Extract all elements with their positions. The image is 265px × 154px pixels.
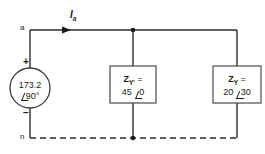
current-label-ia: Ia — [70, 10, 76, 23]
source-minus-sign: − — [23, 108, 29, 118]
circuit-diagram: a n Ia + − 173.2 90° ZY' = 45 0 ZY = 20 … — [0, 0, 265, 154]
right-impedance-angle: 30 — [236, 87, 251, 99]
junction-dot-top — [131, 28, 136, 33]
junction-dot-bottom — [131, 136, 136, 141]
right-impedance-magnitude: 20 — [223, 87, 233, 97]
right-impedance-value: ZY = 20 30 — [210, 74, 264, 99]
current-subscript: a — [73, 15, 77, 22]
middle-impedance-subscript: Y' — [129, 79, 135, 86]
middle-impedance-equals: = — [137, 74, 142, 84]
middle-impedance-value: ZY' = 45 0 — [106, 74, 160, 99]
right-impedance-equals: = — [241, 74, 246, 84]
right-impedance-subscript: Y — [234, 79, 238, 86]
middle-impedance-magnitude-line: 45 0 — [106, 87, 160, 99]
source-magnitude: 173.2 — [8, 80, 52, 91]
middle-impedance-symbol-line: ZY' = — [106, 74, 160, 87]
source-plus-sign: + — [23, 57, 29, 67]
node-label-a: a — [20, 24, 24, 32]
source-angle-line: 90° — [8, 91, 52, 102]
source-value: 173.2 90° — [8, 80, 52, 101]
right-impedance-symbol-line: ZY = — [210, 74, 264, 87]
middle-impedance-angle: 0 — [134, 87, 144, 99]
current-arrow-icon — [62, 27, 71, 34]
node-label-n: n — [20, 133, 24, 141]
source-angle-value: 90° — [21, 91, 40, 102]
right-impedance-magnitude-line: 20 30 — [210, 87, 264, 99]
middle-impedance-magnitude: 45 — [122, 87, 132, 97]
